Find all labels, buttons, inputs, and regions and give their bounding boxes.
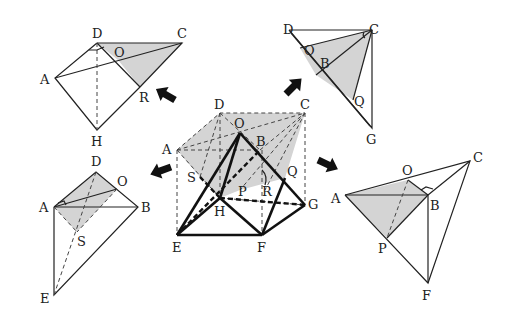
bottom-right-outline — [345, 161, 470, 283]
bottom-right-label-A: A — [330, 191, 341, 206]
bottom-right-label-O: O — [402, 163, 413, 178]
center-label-B: B — [256, 134, 266, 149]
center-label-R: R — [262, 184, 273, 199]
top-left-view: D C O A R H — [39, 26, 187, 149]
arrow-up-left-icon — [152, 82, 179, 107]
bottom-left-label-S: S — [77, 234, 86, 249]
center-label-O: O — [234, 116, 245, 131]
bottom-right-label-B: B — [430, 198, 440, 213]
top-right-label-G: G — [366, 132, 376, 147]
top-left-shaded — [97, 43, 182, 87]
bottom-right-view: O C A B P F — [330, 150, 483, 303]
center-edge-HF — [220, 198, 262, 235]
bottom-right-label-F: F — [422, 288, 431, 303]
top-right-label-B: B — [320, 56, 330, 71]
center-label-H: H — [214, 204, 225, 219]
center-label-A: A — [161, 142, 172, 157]
top-right-label-C: C — [369, 22, 379, 37]
top-left-label-A: A — [39, 72, 50, 87]
bottom-left-label-A: A — [38, 200, 49, 215]
bottom-left-view: D O A B S E — [38, 154, 151, 306]
top-left-label-R: R — [139, 90, 150, 105]
top-right-label-Q: Q — [354, 94, 365, 109]
center-label-Q: Q — [287, 164, 298, 179]
bottom-right-right-angle — [421, 187, 433, 190]
arrow-down-right-icon — [315, 153, 342, 177]
center-label-E: E — [172, 240, 182, 255]
center-figure: D C O A B S P R Q H G E F — [161, 97, 318, 255]
center-label-G: G — [308, 197, 318, 212]
arrow-up-right-icon — [280, 73, 307, 100]
top-left-label-C: C — [177, 26, 187, 41]
bottom-left-label-E: E — [40, 291, 50, 306]
top-left-label-H: H — [91, 134, 102, 149]
top-left-label-O: O — [114, 45, 125, 60]
bottom-left-label-D: D — [91, 154, 101, 169]
top-right-label-D: D — [283, 22, 293, 37]
center-label-S: S — [187, 170, 196, 185]
center-label-F: F — [257, 240, 266, 255]
center-label-C: C — [300, 97, 310, 112]
geometry-diagram: D C O A B S P R Q H G E F D C O A R H D — [0, 0, 512, 327]
center-label-D: D — [214, 97, 224, 112]
bottom-left-label-B: B — [141, 200, 151, 215]
bottom-left-label-O: O — [117, 174, 128, 189]
top-left-label-D: D — [92, 26, 102, 41]
top-right-shaded — [300, 30, 372, 100]
bottom-right-label-C: C — [473, 150, 483, 165]
bottom-right-label-P: P — [378, 241, 387, 256]
center-label-P: P — [238, 184, 247, 199]
arrow-down-left-icon — [148, 159, 174, 182]
top-right-label-O: O — [304, 43, 315, 58]
